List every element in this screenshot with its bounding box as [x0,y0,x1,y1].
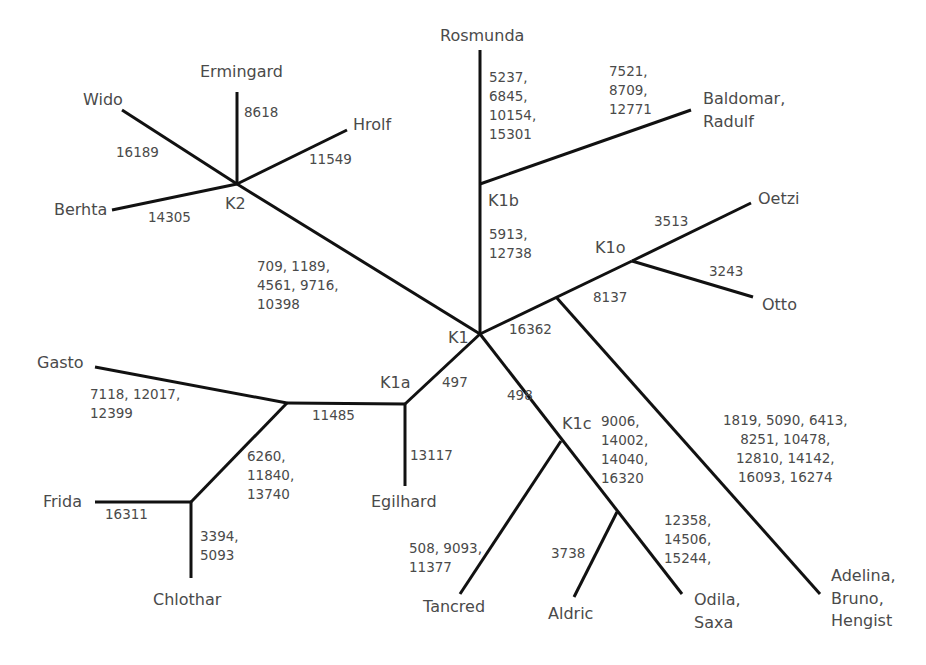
mut-tancred: 508, 9093, 11377 [409,539,482,577]
edge-k1o-oetzi [632,203,751,261]
mut-otto: 3243 [709,262,743,281]
leaf-hrolf: Hrolf [353,114,391,137]
leaf-egilhard: Egilhard [371,491,437,514]
mut-k1o: 8137 [593,288,627,307]
mut-chlothar: 3394, 5093 [200,527,239,565]
mut-berhta: 14305 [148,208,191,227]
edge-k1-k1a [405,334,480,404]
leaf-odila-saxa: Odila, Saxa [694,589,741,634]
node-k2: K2 [225,193,246,216]
mut-k2-k1: 709, 1189, 4561, 9716, 10398 [257,257,339,314]
leaf-baldomar-radulf: Baldomar, Radulf [703,88,785,133]
leaf-gasto: Gasto [37,352,84,375]
mut-baldomar: 7521, 8709, 12771 [609,62,652,119]
mut-rosmunda: 5237, 6845, 10154, 15301 [489,68,536,145]
mut-k1a: 497 [442,373,468,392]
mut-wido: 16189 [116,143,159,162]
node-k1a: K1a [380,372,410,395]
mut-16362: 16362 [509,320,552,339]
leaf-chlothar: Chlothar [153,589,221,612]
node-k1b: K1b [488,190,519,213]
node-k1c: K1c [562,413,591,436]
node-k1: K1 [448,327,469,350]
leaf-rosmunda: Rosmunda [440,25,524,48]
leaf-otto: Otto [762,294,797,317]
leaf-aldric: Aldric [548,603,593,626]
mut-oetzi: 3513 [654,212,688,231]
leaf-frida: Frida [43,491,82,514]
mut-ermingard: 8618 [244,103,278,122]
leaf-berhta: Berhta [54,199,107,222]
leaf-ermingard: Ermingard [200,61,283,84]
mut-odila: 12358, 14506, 15244, [664,511,711,568]
mut-aldric: 3738 [551,544,585,563]
mut-k1b: 5913, 12738 [489,225,532,263]
leaf-wido: Wido [83,89,123,112]
mut-k1c-internal: 9006, 14002, 14040, 16320 [601,412,648,489]
mut-node-frida: 6260, 11840, 13740 [247,447,294,504]
leaf-adelina-bruno-hengist: Adelina, Bruno, Hengist [831,565,896,633]
edge-k2-berhta [112,184,237,210]
mut-node-11485: 11485 [312,406,355,425]
mut-hrolf: 11549 [309,150,352,169]
leaf-oetzi: Oetzi [758,188,800,211]
mut-adelina: 1819, 5090, 6413, 8251, 10478, 12810, 14… [723,411,848,488]
edge-k1a-node11485 [287,403,405,404]
mut-gasto: 7118, 12017, 12399 [90,385,180,423]
mut-k1c: 498 [507,386,533,405]
leaf-tancred: Tancred [423,596,485,619]
node-k1o: K1o [595,237,625,260]
mut-egilhard: 13117 [410,446,453,465]
mut-frida: 16311 [105,505,148,524]
